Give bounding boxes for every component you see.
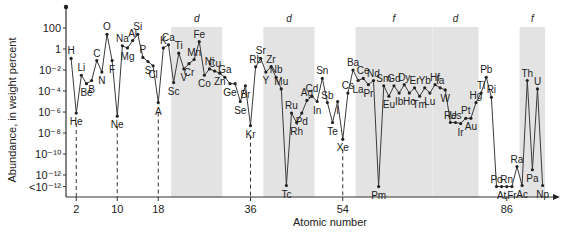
element-label: Ti bbox=[175, 40, 183, 51]
element-label: Cr bbox=[184, 67, 195, 78]
element-label: Pd bbox=[296, 116, 308, 127]
chart-canvas: ddfdf100110⁻²10⁻⁴10⁻⁶10⁻⁸10⁻¹⁰10⁻¹²<10⁻¹… bbox=[0, 0, 575, 233]
element-label: Li bbox=[77, 62, 85, 73]
element-label: Au bbox=[465, 121, 477, 132]
data-point bbox=[70, 57, 73, 60]
element-label: In bbox=[313, 105, 321, 116]
data-point bbox=[249, 124, 252, 127]
x-tick-label: 54 bbox=[337, 203, 349, 215]
x-tick-label: 10 bbox=[111, 203, 123, 215]
element-label: Te bbox=[327, 126, 338, 137]
y-tick-label: 100 bbox=[43, 22, 61, 34]
data-point bbox=[203, 74, 206, 77]
element-label: B bbox=[88, 84, 95, 95]
data-point bbox=[464, 117, 467, 120]
element-label: Ru bbox=[285, 100, 298, 111]
data-point bbox=[495, 185, 498, 188]
element-label: Tl bbox=[477, 80, 485, 91]
data-point bbox=[428, 92, 431, 95]
element-label: Ir bbox=[458, 127, 465, 138]
x-axis-title-text: Atomic number bbox=[293, 216, 367, 228]
data-point bbox=[336, 100, 339, 103]
data-point bbox=[310, 95, 313, 98]
data-point bbox=[305, 99, 308, 102]
data-point bbox=[285, 184, 288, 187]
y-tick-label: 1 bbox=[55, 43, 61, 55]
x-tick-label: 86 bbox=[501, 203, 513, 215]
data-point bbox=[172, 81, 175, 84]
data-point bbox=[146, 60, 149, 63]
data-point bbox=[541, 184, 544, 187]
y-tick-label: 10⁻⁴ bbox=[38, 85, 61, 97]
data-point bbox=[346, 92, 349, 95]
element-label: F bbox=[109, 64, 115, 75]
data-point bbox=[392, 84, 395, 87]
data-point bbox=[515, 165, 518, 168]
data-point bbox=[454, 121, 457, 124]
data-point bbox=[449, 121, 452, 124]
data-point bbox=[121, 44, 124, 47]
element-label: Mn bbox=[187, 47, 201, 58]
element-label: Hg bbox=[470, 90, 483, 101]
band-label: f bbox=[531, 13, 535, 24]
y-tick-label: 10⁻⁶ bbox=[38, 106, 61, 118]
x-tick-label: 18 bbox=[152, 203, 164, 215]
element-label: Sr bbox=[256, 45, 267, 56]
data-point bbox=[95, 59, 98, 62]
element-label: Co bbox=[198, 78, 211, 89]
data-point bbox=[254, 65, 257, 68]
data-point bbox=[100, 71, 103, 74]
y-tick-label: 10⁻¹² bbox=[35, 169, 61, 181]
data-point bbox=[526, 79, 529, 82]
data-point bbox=[357, 79, 360, 82]
data-point bbox=[480, 92, 483, 95]
y-tick-label: 10⁻⁸ bbox=[38, 127, 61, 139]
data-point bbox=[485, 76, 488, 79]
data-point bbox=[490, 96, 493, 99]
data-point bbox=[75, 111, 78, 114]
data-point bbox=[331, 121, 334, 124]
data-point bbox=[418, 95, 421, 98]
element-label: I bbox=[336, 105, 339, 116]
element-label: Eu bbox=[383, 99, 395, 110]
data-point bbox=[105, 33, 108, 36]
band-f-4 bbox=[520, 27, 546, 197]
data-point bbox=[408, 92, 411, 95]
data-point bbox=[152, 64, 155, 67]
element-label: Mu bbox=[274, 76, 288, 87]
data-point bbox=[500, 185, 503, 188]
element-label: Lu bbox=[424, 96, 435, 107]
element-label: Rn bbox=[500, 174, 513, 185]
y-tick-label: 10⁻¹⁰ bbox=[35, 148, 62, 160]
data-point bbox=[187, 62, 190, 65]
element-label: Cl bbox=[148, 69, 157, 80]
element-label: Ge bbox=[223, 87, 237, 98]
element-label: He bbox=[70, 116, 83, 127]
data-point bbox=[290, 111, 293, 114]
element-label: Mg bbox=[121, 51, 135, 62]
data-point bbox=[326, 101, 329, 104]
element-label: Br bbox=[240, 89, 251, 100]
data-point bbox=[259, 57, 262, 60]
band-d-1 bbox=[263, 27, 314, 197]
element-label: Nb bbox=[270, 64, 283, 75]
element-label: H bbox=[68, 45, 75, 56]
data-point bbox=[316, 100, 319, 103]
element-label: Xe bbox=[337, 142, 350, 153]
abundance-chart: ddfdf100110⁻²10⁻⁴10⁻⁶10⁻⁸10⁻¹⁰10⁻¹²<10⁻¹… bbox=[0, 0, 575, 233]
element-label: Pa bbox=[526, 173, 539, 184]
element-label: Pr bbox=[363, 88, 374, 99]
band-f-2 bbox=[356, 27, 433, 197]
data-point bbox=[377, 185, 380, 188]
data-point bbox=[474, 101, 477, 104]
band-label: d bbox=[194, 13, 200, 24]
element-label: La bbox=[353, 84, 365, 95]
element-label: At bbox=[497, 190, 507, 201]
data-point bbox=[398, 92, 401, 95]
data-point bbox=[264, 71, 267, 74]
band-label: f bbox=[393, 13, 397, 24]
element-label: P bbox=[140, 44, 147, 55]
element-label: Sn bbox=[316, 65, 328, 76]
data-point bbox=[177, 52, 180, 55]
element-label: Fe bbox=[193, 29, 205, 40]
